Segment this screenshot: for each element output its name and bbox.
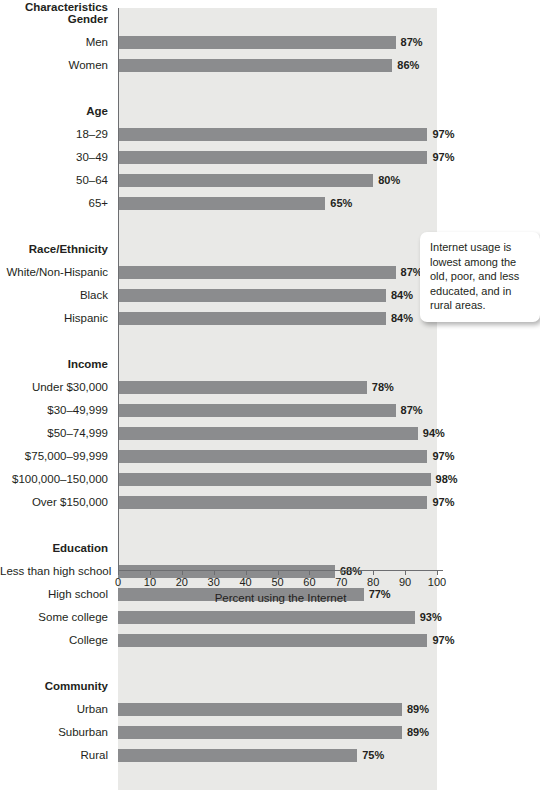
category-label: College	[0, 629, 108, 652]
bar-value-label: 80%	[378, 169, 400, 192]
x-axis: 0102030405060708090100	[118, 570, 443, 582]
bar-value-label: 97%	[432, 491, 454, 514]
bar	[118, 197, 325, 210]
x-axis-tick	[405, 570, 406, 575]
bar	[118, 404, 396, 417]
table-row: College97%	[0, 629, 533, 652]
row-spacer	[0, 767, 533, 790]
bar	[118, 634, 427, 647]
bar-value-label: 87%	[401, 399, 423, 422]
category-label: Under $30,000	[0, 376, 108, 399]
table-row: Urban89%	[0, 698, 533, 721]
bar	[118, 59, 392, 72]
bar-value-label: 78%	[372, 376, 394, 399]
group-header-education: Education	[0, 537, 533, 560]
table-row: Women86%	[0, 54, 533, 77]
x-axis-tick	[246, 570, 247, 575]
table-row: Suburban89%	[0, 721, 533, 744]
plot-band	[118, 215, 437, 238]
bar	[118, 151, 427, 164]
table-row: $30–49,99987%	[0, 399, 533, 422]
group-header-age: Age	[0, 100, 533, 123]
plot-band	[118, 353, 437, 376]
chart-rows: GenderMen87%Women86%Age18–2997%30–4997%5…	[0, 8, 533, 790]
table-row: 50–6480%	[0, 169, 533, 192]
callout-annotation: Internet usage is lowest among the old, …	[420, 232, 540, 322]
group-header-label: Community	[0, 675, 108, 698]
x-axis-tick	[214, 570, 215, 575]
table-row: 18–2997%	[0, 123, 533, 146]
bar	[118, 289, 386, 302]
x-axis-tick	[309, 570, 310, 575]
table-row: Men87%	[0, 31, 533, 54]
category-label: $100,000–150,000	[0, 468, 108, 491]
category-label: 30–49	[0, 146, 108, 169]
category-label: $75,000–99,999	[0, 445, 108, 468]
table-row: $100,000–150,00098%	[0, 468, 533, 491]
x-axis-tick	[341, 570, 342, 575]
plot-band	[118, 238, 437, 261]
category-label: 18–29	[0, 123, 108, 146]
row-spacer	[0, 77, 533, 100]
bar-value-label: 93%	[420, 606, 442, 629]
bar	[118, 611, 415, 624]
bar-value-label: 65%	[330, 192, 352, 215]
bar-value-label: 84%	[391, 307, 413, 330]
table-row: $75,000–99,99997%	[0, 445, 533, 468]
category-label: Urban	[0, 698, 108, 721]
plot-band	[118, 100, 437, 123]
group-header-gender: Gender	[0, 8, 533, 31]
bar-value-label: 97%	[432, 146, 454, 169]
plot-band	[118, 537, 437, 560]
group-header-community: Community	[0, 675, 533, 698]
group-header-label: Gender	[0, 8, 108, 31]
bar-value-label: 97%	[432, 445, 454, 468]
y-axis-spine	[118, 8, 119, 570]
x-axis-title: Percent using the Internet	[118, 592, 443, 604]
category-label: Men	[0, 31, 108, 54]
category-label: Over $150,000	[0, 491, 108, 514]
table-row: Some college93%	[0, 606, 533, 629]
bar	[118, 726, 402, 739]
bar	[118, 450, 427, 463]
bar	[118, 312, 386, 325]
x-axis-tick	[150, 570, 151, 575]
plot-band	[118, 330, 437, 353]
category-label: Less than high school	[0, 560, 108, 583]
category-label: 50–64	[0, 169, 108, 192]
bar-value-label: 98%	[436, 468, 458, 491]
bar-value-label: 97%	[432, 123, 454, 146]
table-row: 30–4997%	[0, 146, 533, 169]
group-header-label: Income	[0, 353, 108, 376]
category-label: White/Non-Hispanic	[0, 261, 108, 284]
x-axis-tick	[182, 570, 183, 575]
category-label: 65+	[0, 192, 108, 215]
bar	[118, 473, 431, 486]
bar-value-label: 84%	[391, 284, 413, 307]
table-row: Under $30,00078%	[0, 376, 533, 399]
bar	[118, 427, 418, 440]
group-header-label: Race/Ethnicity	[0, 238, 108, 261]
table-row: Rural75%	[0, 744, 533, 767]
category-label: Hispanic	[0, 307, 108, 330]
plot-band	[118, 77, 437, 100]
row-spacer	[0, 330, 533, 353]
bar	[118, 174, 373, 187]
plot-band	[118, 8, 437, 31]
table-row: $50–74,99994%	[0, 422, 533, 445]
bar	[118, 128, 427, 141]
bar-value-label: 89%	[407, 721, 429, 744]
category-label: High school	[0, 583, 108, 606]
category-label: $50–74,999	[0, 422, 108, 445]
x-axis-tick-label: 100	[417, 576, 457, 588]
plot-band	[118, 652, 437, 675]
bar	[118, 496, 427, 509]
row-spacer	[0, 514, 533, 537]
bar	[118, 749, 357, 762]
bar	[118, 381, 367, 394]
plot-band	[118, 675, 437, 698]
x-axis-tick	[118, 570, 119, 575]
category-label: Suburban	[0, 721, 108, 744]
x-axis-tick	[437, 570, 438, 575]
